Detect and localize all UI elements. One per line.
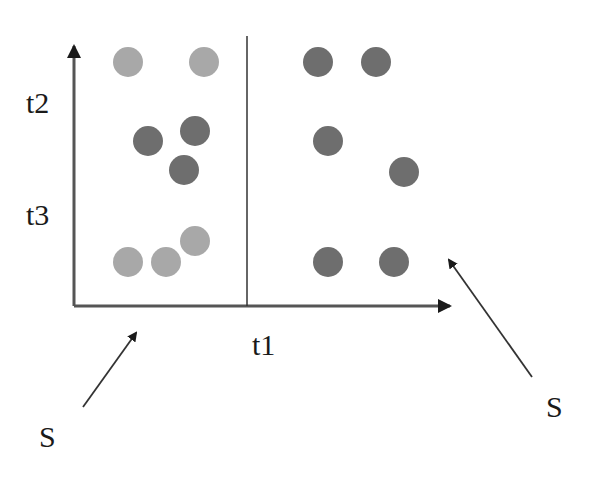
light-dot [113, 47, 143, 77]
y-label-t2: t2 [26, 88, 49, 118]
dark-dot [389, 157, 419, 187]
annotation-s-right: S [546, 392, 563, 422]
x-label-t1: t1 [252, 330, 275, 360]
dark-dot [313, 126, 343, 156]
light-dot [189, 47, 219, 77]
left-s-arrow [83, 333, 136, 407]
light-dot [151, 247, 181, 277]
light-dot [180, 226, 210, 256]
right-s-arrow [449, 260, 532, 377]
annotation-s-left: S [39, 422, 56, 452]
diagram-canvas [0, 0, 595, 480]
dark-dot [169, 155, 199, 185]
dot-group [113, 47, 419, 277]
dark-dot [313, 247, 343, 277]
dark-dot [379, 247, 409, 277]
dark-dot [180, 116, 210, 146]
dark-dot [133, 126, 163, 156]
dark-dot [303, 47, 333, 77]
light-dot [113, 247, 143, 277]
y-label-t3: t3 [26, 200, 49, 230]
dark-dot [361, 47, 391, 77]
